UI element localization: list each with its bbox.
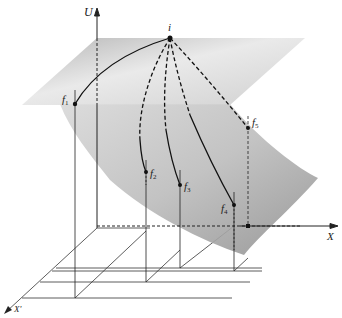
- point-x-axis-projection: [246, 224, 250, 228]
- point-f2: [144, 170, 148, 174]
- u-axis-label: U: [84, 5, 94, 19]
- point-f3: [178, 183, 182, 187]
- point-f1: [73, 102, 77, 106]
- x-axis-label: X: [326, 230, 335, 242]
- label-f5: f5: [252, 116, 259, 130]
- point-f5: [246, 126, 250, 130]
- thermodynamic-surface-diagram: U X X' i f1 f2 f3 f4 f5: [0, 0, 342, 318]
- label-i: i: [168, 21, 171, 33]
- point-i: [168, 36, 173, 41]
- x-prime-axis-label: X': [13, 304, 22, 314]
- equilibrium-surface: [60, 104, 318, 255]
- point-f4: [232, 203, 236, 207]
